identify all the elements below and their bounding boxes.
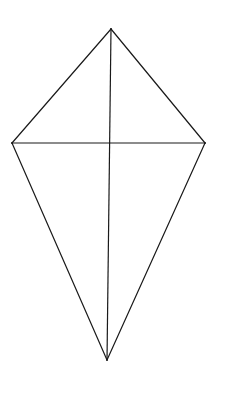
- edge-right-bottom: [107, 143, 205, 360]
- edge-bottom-left: [12, 143, 107, 360]
- vertex-bottom: [106, 359, 108, 361]
- vertex-right: [204, 142, 206, 144]
- kite-diagonals: [12, 29, 205, 360]
- vertical-diagonal: [107, 29, 111, 360]
- vertex-left: [11, 142, 13, 144]
- kite-diagram: [0, 0, 225, 404]
- edge-left-top: [12, 29, 111, 143]
- edge-top-right: [111, 29, 205, 143]
- vertex-top: [110, 28, 112, 30]
